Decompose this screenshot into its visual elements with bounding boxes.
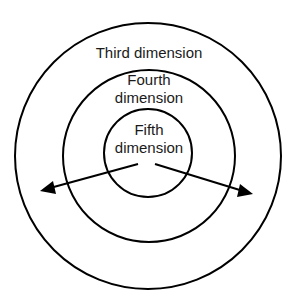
fourth-dimension-label-line-2: dimension (99, 89, 199, 107)
fifth-dimension-label-line-1: Fifth (99, 121, 199, 139)
third-dimension-label-line-1: Third dimension (74, 44, 224, 62)
fourth-dimension-label: Fourth dimension (99, 71, 199, 107)
fifth-dimension-label-line-2: dimension (99, 139, 199, 157)
fifth-dimension-label: Fifth dimension (99, 121, 199, 157)
fourth-dimension-label-line-1: Fourth (99, 71, 199, 89)
third-dimension-label: Third dimension (74, 44, 224, 62)
